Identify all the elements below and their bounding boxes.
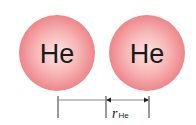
arrow-left-icon	[106, 98, 111, 103]
radius-label: rHe	[112, 106, 129, 121]
arrow-right-icon	[144, 98, 149, 103]
distance-markers	[58, 96, 149, 118]
atom-right: He	[109, 15, 185, 91]
atom-left: He	[19, 15, 95, 91]
helium-radius-diagram: He He rHe	[0, 0, 196, 125]
atom-right-symbol: He	[130, 39, 165, 69]
radius-label-sub: He	[118, 111, 129, 120]
atom-left-symbol: He	[40, 39, 75, 69]
radius-label-main: r	[112, 106, 118, 121]
